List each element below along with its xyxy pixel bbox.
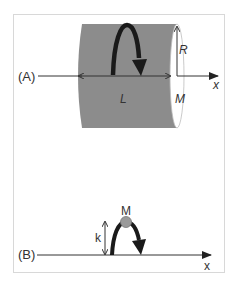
panel-a-label: (A) [18,69,35,84]
panel-a: (A) L R M x [18,24,220,128]
mass-label-b: M [121,204,131,218]
axis-label-a: x [212,78,220,92]
radius-label: R [179,43,188,57]
mass-label-a: M [175,92,185,106]
length-label: L [120,92,127,106]
panel-b-label: (B) [18,247,35,262]
diagram-canvas: (A) L R M x (B) M k x [0,0,240,287]
trajectory-arrowhead-icon [132,239,146,255]
axis-label-b: x [204,259,210,273]
panel-b: (B) M k x [18,204,211,273]
mass-ball [121,217,132,228]
height-label: k [95,231,102,245]
